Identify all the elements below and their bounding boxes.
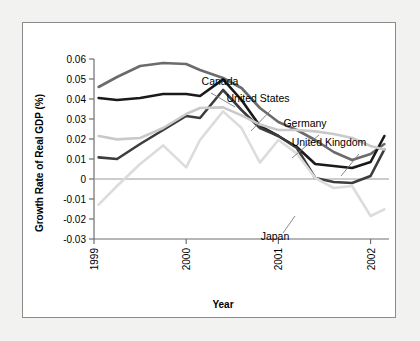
series-label-germany: Germany: [283, 117, 327, 129]
y-tick-label: 0.01: [67, 154, 87, 165]
y-axis-title: Growth Rate of Real GDP (%): [34, 94, 45, 232]
x-tick-label: 2000: [181, 248, 192, 271]
x-axis-title: Year: [212, 299, 233, 310]
x-tick-label: 1999: [89, 248, 100, 271]
y-tick-label: -0.03: [63, 234, 86, 245]
series-label-japan: Japan: [261, 230, 290, 242]
y-tick-label: -0.02: [63, 214, 86, 225]
annotation-layer: CanadaUnited StatesGermanyUnited Kingdom…: [202, 75, 367, 242]
y-tick-label: 0.03: [67, 114, 87, 125]
gdp-growth-line-chart: 0.060.050.040.030.020.010-0.01-0.02-0.03…: [23, 23, 395, 317]
x-tick-label: 2001: [273, 248, 284, 271]
series-label-canada: Canada: [202, 75, 239, 87]
y-tick-label: 0.02: [67, 134, 87, 145]
y-tick-label: 0.05: [67, 74, 87, 85]
series-line-japan: [99, 111, 385, 216]
y-tick-label: 0.06: [67, 54, 87, 65]
series-label-united-kingdom: United Kingdom: [292, 136, 367, 148]
series-label-united-states: United States: [226, 92, 289, 104]
y-tick-label: 0: [80, 174, 86, 185]
y-tick-label: 0.04: [67, 94, 87, 105]
x-tick-label: 2002: [366, 248, 377, 271]
figure-panel: 0.060.050.040.030.020.010-0.01-0.02-0.03…: [22, 22, 396, 318]
y-tick-label: -0.01: [63, 194, 86, 205]
